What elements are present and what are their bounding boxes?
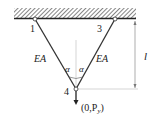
load-arrow	[74, 90, 79, 105]
angle-left-label: α	[65, 64, 70, 74]
node-1-label: 1	[30, 23, 35, 34]
member-3-4-label: EA	[95, 53, 109, 64]
angle-right-label: α	[79, 64, 84, 74]
node-3	[113, 17, 117, 21]
node-4-label: 4	[64, 86, 69, 97]
member-1-4-label: EA	[33, 53, 47, 64]
dimension-label: l	[144, 50, 147, 62]
load-label: (0,Py)	[81, 102, 104, 115]
fixed-support	[14, 8, 136, 19]
truss-diagram: 1 3 4 EA EA α α l (0,Py)	[0, 0, 159, 122]
node-4	[74, 87, 78, 91]
node-3-label: 3	[97, 23, 102, 34]
node-1	[33, 17, 37, 21]
